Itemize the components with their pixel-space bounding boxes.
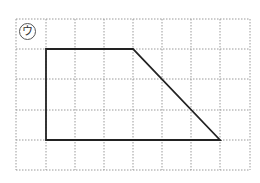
- circled-label-badge: ウ: [19, 23, 36, 40]
- grid-figure: [0, 0, 260, 183]
- figure-label: ウ: [19, 23, 39, 43]
- figure-label-text: ウ: [22, 26, 33, 37]
- dotted-grid: [16, 19, 250, 170]
